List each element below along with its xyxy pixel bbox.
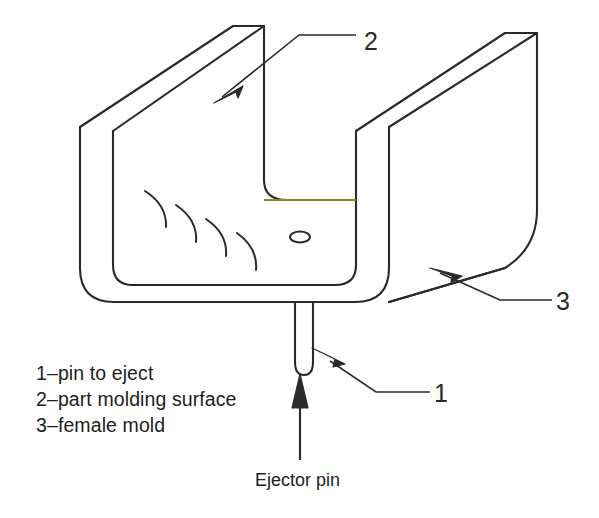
fillet-arc-1	[145, 191, 166, 227]
callout-1-leader-line	[330, 361, 430, 392]
female-mold-body	[80, 26, 537, 302]
legend-item-1: 1–pin to eject	[36, 360, 237, 386]
callout-1-arrowhead	[312, 348, 345, 367]
cavity-fillet-arc-marks	[145, 191, 256, 270]
figure-caption: Ejector pin	[255, 470, 340, 491]
callout-3: 3	[430, 268, 570, 315]
ejector-pin-hole	[290, 232, 310, 243]
legend-item-2: 2–part molding surface	[36, 386, 237, 412]
right-wall-top-face	[356, 33, 537, 131]
ejector-pin-direction-arrow	[292, 374, 308, 460]
legend-item-3: 3–female mold	[36, 412, 237, 438]
mold-outer-front-profile	[80, 127, 389, 302]
mold-right-side-face	[389, 33, 537, 302]
mold-inner-front-profile	[113, 131, 356, 285]
callout-3-label: 3	[556, 287, 570, 315]
callout-2-arrowhead	[214, 86, 243, 103]
fillet-arc-2	[176, 205, 196, 242]
ejector-pin	[295, 303, 313, 375]
callout-2: 2	[214, 27, 378, 103]
fillet-arc-3	[206, 219, 226, 256]
left-wall-top-face	[80, 26, 264, 131]
fillet-arc-4	[237, 233, 256, 270]
cavity-inner-back-fillet	[264, 180, 356, 200]
callout-1-label: 1	[434, 379, 448, 407]
legend: 1–pin to eject 2–part molding surface 3–…	[36, 360, 237, 438]
ejector-arrow-head	[292, 374, 308, 408]
mold-diagram: 2 3 1	[0, 0, 599, 518]
callout-2-label: 2	[364, 27, 378, 55]
callout-1: 1	[312, 348, 448, 407]
